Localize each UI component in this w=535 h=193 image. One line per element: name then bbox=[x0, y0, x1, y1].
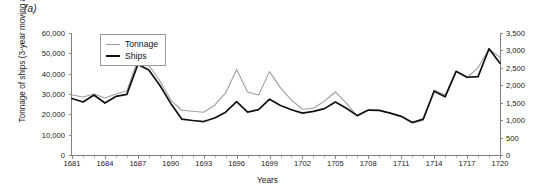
x-axis-tick-minor bbox=[226, 156, 227, 158]
x-axis-tick-label: 1699 bbox=[261, 159, 278, 168]
x-axis-tick-minor bbox=[423, 156, 424, 158]
x-axis-tick-minor bbox=[445, 156, 446, 158]
x-axis-tick-minor bbox=[149, 156, 150, 158]
x-axis-tick-minor bbox=[313, 156, 314, 158]
y-axis-right-tick bbox=[500, 50, 503, 51]
legend-label-tonnage: Tonnage bbox=[125, 39, 158, 49]
legend-swatch-ships bbox=[106, 55, 120, 57]
legend-swatch-tonnage bbox=[106, 44, 120, 45]
y-axis-right-tick bbox=[500, 85, 503, 86]
x-axis-tick-minor bbox=[94, 156, 95, 158]
x-axis-tick-label: 1720 bbox=[492, 159, 509, 168]
y-axis-right-tick bbox=[500, 68, 503, 69]
y-axis-left-tick-label: 60,000 bbox=[0, 29, 65, 38]
x-axis-tick-minor bbox=[182, 156, 183, 158]
x-axis-tick-label: 1681 bbox=[64, 159, 81, 168]
y-axis-right-tick bbox=[500, 138, 503, 139]
x-axis-tick-label: 1705 bbox=[327, 159, 344, 168]
legend: Tonnage Ships bbox=[100, 34, 166, 66]
x-axis-tick-minor bbox=[215, 156, 216, 158]
y-axis-right-tick-label: 2,500 bbox=[506, 63, 525, 72]
y-axis-left-tick-label: 40,000 bbox=[0, 69, 65, 78]
y-axis-right-tick-label: 500 bbox=[506, 133, 519, 142]
x-axis-tick-label: 1684 bbox=[96, 159, 113, 168]
x-axis-tick-label: 1696 bbox=[228, 159, 245, 168]
y-axis-right-tick-label: 1,500 bbox=[506, 98, 525, 107]
x-axis-tick-minor bbox=[160, 156, 161, 158]
legend-item-tonnage: Tonnage bbox=[106, 38, 158, 50]
y-axis-right-tick-label: 3,000 bbox=[506, 46, 525, 55]
x-axis-tick-minor bbox=[456, 156, 457, 158]
figure-panel-a: (a) Tonnage of ships (3-year moving aver… bbox=[0, 0, 535, 193]
x-axis-tick-label: 1690 bbox=[162, 159, 179, 168]
x-axis-tick-minor bbox=[259, 156, 260, 158]
y-axis-right-tick-label: 1,000 bbox=[506, 116, 525, 125]
y-axis-right-tick-label: 2,000 bbox=[506, 81, 525, 90]
x-axis-tick-label: 1714 bbox=[426, 159, 443, 168]
x-axis-tick-minor bbox=[127, 156, 128, 158]
y-axis-left-tick-label: 50,000 bbox=[0, 49, 65, 58]
x-axis-tick-minor bbox=[357, 156, 358, 158]
y-axis-left-tick-label: 30,000 bbox=[0, 90, 65, 99]
x-axis-tick-minor bbox=[281, 156, 282, 158]
x-axis-tick-minor bbox=[193, 156, 194, 158]
x-axis-tick-label: 1708 bbox=[360, 159, 377, 168]
x-axis-tick-minor bbox=[478, 156, 479, 158]
x-axis-tick-minor bbox=[379, 156, 380, 158]
x-axis-tick-label: 1711 bbox=[393, 159, 409, 168]
y-axis-left-title: Tonnage of ships (3-year moving average) bbox=[18, 0, 27, 123]
y-axis-left-tick-label: 10,000 bbox=[0, 130, 65, 139]
x-axis-tick-minor bbox=[412, 156, 413, 158]
x-axis-tick-minor bbox=[390, 156, 391, 158]
legend-item-ships: Ships bbox=[106, 50, 158, 62]
x-axis-tick-minor bbox=[291, 156, 292, 158]
x-axis-tick-label: 1702 bbox=[294, 159, 311, 168]
y-axis-left-tick-label: 20,000 bbox=[0, 110, 65, 119]
x-axis-tick-minor bbox=[346, 156, 347, 158]
y-axis-right-tick bbox=[500, 120, 503, 121]
x-axis-tick-label: 1717 bbox=[459, 159, 476, 168]
x-axis-title: Years bbox=[0, 175, 535, 185]
x-axis-tick-minor bbox=[489, 156, 490, 158]
x-axis-tick-label: 1693 bbox=[195, 159, 212, 168]
y-axis-left-tick-label: 0 bbox=[0, 151, 65, 160]
x-axis-tick-minor bbox=[83, 156, 84, 158]
x-axis-tick-label: 1687 bbox=[129, 159, 146, 168]
x-axis-tick-minor bbox=[324, 156, 325, 158]
x-axis-tick-minor bbox=[248, 156, 249, 158]
y-axis-right-tick-label: 3,500 bbox=[506, 29, 525, 38]
x-axis-line bbox=[71, 155, 501, 156]
legend-label-ships: Ships bbox=[125, 51, 147, 61]
y-axis-right-tick bbox=[500, 33, 503, 34]
x-axis-tick-minor bbox=[116, 156, 117, 158]
y-axis-right-tick bbox=[500, 103, 503, 104]
